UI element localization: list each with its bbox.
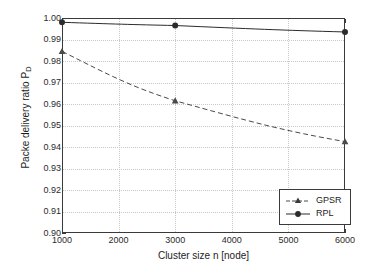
legend-label-gpsr: GPSR: [316, 196, 342, 205]
legend: GPSR RPL: [279, 189, 351, 225]
legend-item-gpsr[interactable]: GPSR: [285, 194, 345, 207]
series-line-gpsr: [62, 51, 345, 141]
data-point-gpsr: [59, 48, 66, 54]
rpl-marker-icon: [285, 208, 311, 220]
data-series-layer: [0, 0, 379, 272]
series-line-rpl: [62, 22, 345, 32]
legend-label-rpl: RPL: [316, 209, 334, 218]
gpsr-marker-icon: [285, 195, 311, 207]
legend-item-rpl[interactable]: RPL: [285, 207, 345, 220]
chart-figure: Packe delivery ratio PD 0.900.910.920.93…: [0, 0, 379, 272]
data-point-rpl: [172, 23, 178, 29]
x-axis-title: Cluster size n [node]: [62, 250, 345, 261]
data-point-rpl: [342, 29, 348, 35]
data-point-rpl: [59, 19, 65, 25]
